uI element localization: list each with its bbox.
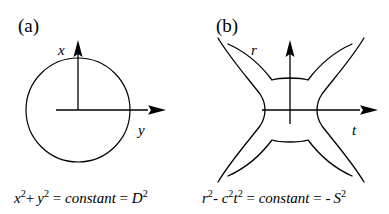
eq-b-S: S [334,190,342,206]
eq-a-x: x [14,190,21,206]
eq-a-constant: constant [65,190,116,206]
hyperbola-branch-left [218,38,265,182]
panel-b-vertical-axis-label: r [251,43,257,58]
panel-a-horizontal-axis-label: y [138,123,145,138]
horizontal-axis-arrowhead-icon [148,105,166,115]
eq-b-minus: - [213,190,218,206]
eq-a-equals-2: = [120,190,128,206]
panel-a: (a) x y x2+ y2 = constant = D2 [0,0,195,214]
eq-a-equals-1: = [53,190,61,206]
eq-a-y-exp: 2 [44,188,49,199]
horizontal-axis-arrowhead-icon [360,105,378,115]
eq-b-equals-2: = [313,190,321,206]
panel-b-horizontal-axis-label: t [352,123,356,138]
panel-a-vertical-axis-label: x [58,43,65,58]
panel-a-equation: x2+ y2 = constant = D2 [14,191,148,206]
panel-b: (b) r t r2- c2t2 = constant = - S2 [194,0,389,214]
eq-b-rhs-sign: - [326,190,331,206]
eq-a-y: y [37,190,44,206]
eq-a-D-exp: 2 [143,188,148,199]
eq-a-plus: + [26,190,34,206]
panel-a-label: (a) [18,16,39,35]
hyperbola-branch-down [228,140,352,176]
eq-b-S-exp: 2 [341,188,346,199]
eq-a-D: D [132,190,143,206]
physics-figure: (a) x y x2+ y2 = constant = D2 [0,0,389,214]
eq-b-equals-1: = [246,190,254,206]
eq-b-constant: constant [259,190,310,206]
panel-b-equation: r2- c2t2 = constant = - S2 [202,191,346,206]
panel-b-label: (b) [216,16,238,35]
eq-b-t-exp: 2 [238,188,243,199]
